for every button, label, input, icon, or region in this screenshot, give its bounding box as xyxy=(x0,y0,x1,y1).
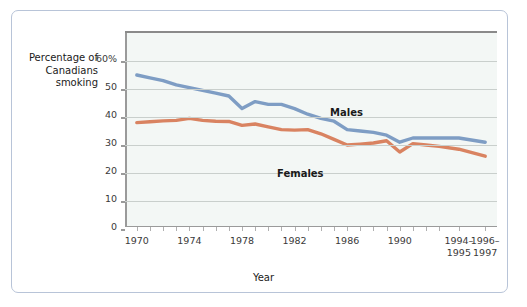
y-tick-label: 30 xyxy=(81,137,117,148)
x-tick-mark xyxy=(459,227,460,231)
x-tick-label: 1970 xyxy=(114,235,160,247)
gridline xyxy=(125,145,497,146)
x-tick-mark xyxy=(163,227,164,231)
y-tick-mark xyxy=(121,61,125,63)
x-tick-mark xyxy=(360,227,361,231)
x-tick-mark xyxy=(373,227,374,231)
x-tick-mark xyxy=(387,227,388,231)
x-axis-label: Year xyxy=(0,272,527,283)
y-axis-line xyxy=(125,33,127,227)
y-tick-label: 0 xyxy=(81,221,117,232)
plot-inner: Males Females xyxy=(125,33,497,227)
x-tick-label: 1996– 1997 xyxy=(462,235,508,258)
x-tick-mark xyxy=(295,227,296,231)
x-tick-label: 1986 xyxy=(324,235,370,247)
x-tick-mark xyxy=(229,227,230,231)
y-tick-mark xyxy=(121,145,125,147)
x-tick-label: 1982 xyxy=(272,235,318,247)
y-tick-label: 60% xyxy=(81,53,117,64)
males-label: Males xyxy=(330,107,363,118)
gridline xyxy=(125,117,497,118)
gridline xyxy=(125,201,497,202)
x-tick-mark xyxy=(426,227,427,231)
x-tick-label: 1974 xyxy=(166,235,212,247)
chart-figure: Percentage of Canadians smoking Males Fe… xyxy=(0,0,527,307)
series-lines xyxy=(125,33,497,229)
x-tick-mark xyxy=(150,227,151,231)
y-tick-label: 50 xyxy=(81,81,117,92)
x-tick-mark xyxy=(485,227,486,231)
x-tick-mark xyxy=(439,227,440,231)
x-tick-mark xyxy=(242,227,243,231)
x-tick-mark xyxy=(413,227,414,231)
x-tick-mark xyxy=(334,227,335,231)
y-tick-label: 10 xyxy=(81,193,117,204)
y-tick-mark xyxy=(121,117,125,119)
y-tick-mark xyxy=(121,201,125,203)
y-tick-label: 40 xyxy=(81,109,117,120)
x-tick-mark xyxy=(255,227,256,231)
y-tick-label: 20 xyxy=(81,165,117,176)
gridline xyxy=(125,61,497,62)
x-tick-mark xyxy=(321,227,322,231)
x-tick-label: 1990 xyxy=(377,235,423,247)
x-tick-mark xyxy=(308,227,309,231)
x-tick-mark xyxy=(203,227,204,231)
gridline xyxy=(125,89,497,90)
x-tick-mark xyxy=(216,227,217,231)
x-tick-mark xyxy=(281,227,282,231)
x-tick-label: 1978 xyxy=(219,235,265,247)
x-axis-line xyxy=(125,226,497,228)
x-tick-mark xyxy=(347,227,348,231)
y-tick-mark xyxy=(121,89,125,91)
y-tick-mark xyxy=(121,229,125,231)
y-tick-mark xyxy=(121,173,125,175)
x-tick-mark xyxy=(400,227,401,231)
plot-area: Males Females xyxy=(125,31,497,227)
x-tick-mark xyxy=(137,227,138,231)
x-tick-mark xyxy=(189,227,190,231)
x-tick-mark xyxy=(268,227,269,231)
females-label: Females xyxy=(277,168,324,179)
x-tick-mark xyxy=(176,227,177,231)
y-axis-label-line-2: Canadians xyxy=(18,65,98,78)
